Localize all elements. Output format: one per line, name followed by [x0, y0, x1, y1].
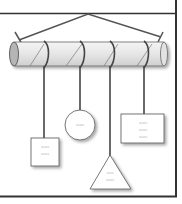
card-4-line-3: ≈≈≈≈≈ [139, 135, 148, 139]
card-1-line-2: ≈≈≈≈≈ [41, 152, 50, 156]
card-3-line-1: ≈≈≈≈ [107, 171, 114, 175]
card-1-line-1: ≈≈≈≈≈ [41, 145, 50, 149]
card-2-line-1: ≈≈≈≈≈ [76, 123, 85, 127]
card-4-line-2: ≈≈≈≈≈ [139, 128, 148, 132]
card-3-line-2: ≈≈≈≈≈ [106, 178, 115, 182]
rod [10, 42, 168, 66]
hanging-string [15, 14, 163, 44]
card-4-line-1: ≈≈≈≈≈ [139, 121, 148, 125]
mobile-diagram: ≈≈≈≈≈ ≈≈≈≈≈ ≈≈≈≈≈ ≈≈≈≈ ≈≈≈≈≈ ≈≈≈≈≈ ≈≈≈≈≈… [0, 0, 182, 204]
frame [0, 0, 177, 197]
